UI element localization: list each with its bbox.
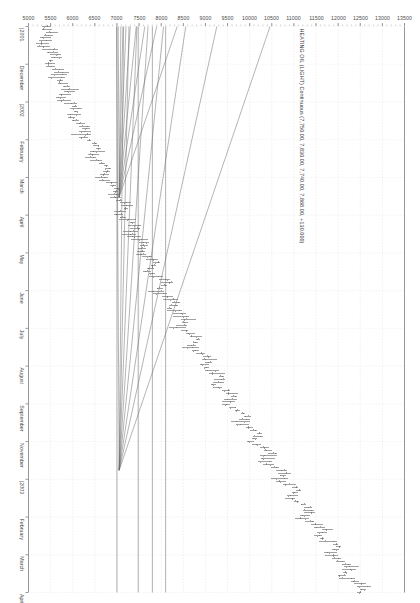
price-tick-label: 13500 [397,14,412,20]
time-tick-label: April [18,594,24,603]
price-tick-label: 5500 [44,14,56,20]
price-tick-label: 13000 [374,14,389,20]
price-tick-label: 5000 [22,14,34,20]
price-tick-label: 10000 [242,14,257,20]
ohlc-bars [35,25,370,593]
time-tick-label: March [18,178,24,193]
chart-screenshot: 1350013000125001200011500110001050010000… [0,0,420,603]
rotated-chart-canvas: 1350013000125001200011500110001050010000… [0,0,420,603]
price-tick-label: 11000 [286,14,301,20]
chart-plot-area: 1350013000125001200011500110001050010000… [0,0,420,603]
price-level-lines [116,26,165,592]
time-gridlines [28,26,404,592]
price-tick-label: 8000 [155,14,167,20]
price-tick-label: 10500 [264,14,279,20]
time-tick-label: September [18,405,24,431]
chart-graphics [0,0,420,603]
time-tick-label: May [18,254,24,264]
time-tick-label: |2002 [18,103,24,116]
time-tick-label: June [18,292,24,304]
price-tick-label: 7000 [111,14,123,20]
time-tick-label: April [18,216,24,227]
price-gridlines [28,26,404,592]
time-tick-label: February [18,518,24,540]
price-tick-label: 8500 [177,14,189,20]
time-tick-label: |2001 [18,28,24,41]
time-tick-label: August [18,367,24,384]
time-tick-label: December [18,65,24,90]
price-tick-label: 12500 [352,14,367,20]
axis-lines [25,23,404,593]
chart-title: HEATING OIL (LIGHT) Continuous (7,750.00… [298,28,304,243]
price-tick-label: 7500 [133,14,145,20]
time-tick-label: July [18,329,24,339]
time-tick-label: March [18,556,24,571]
price-tick-label: 9500 [221,14,233,20]
price-tick-label: 6500 [88,14,100,20]
price-tick-label: 9000 [199,14,211,20]
price-tick-label: 6000 [66,14,78,20]
time-tick-label: |2003 [18,480,24,493]
price-tick-label: 12000 [330,14,345,20]
price-tick-label: 11500 [308,14,323,20]
time-tick-label: November [18,443,24,468]
time-tick-label: February [18,141,24,163]
